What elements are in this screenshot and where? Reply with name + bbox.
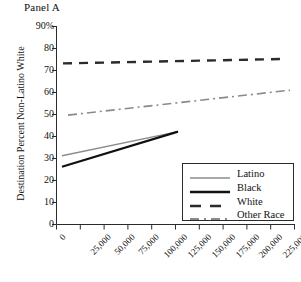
series-line-latino: [62, 132, 178, 156]
chart-root: Panel A Destination Percent Non-Latino W…: [0, 0, 301, 282]
legend-item-white: White: [189, 195, 263, 208]
series-line-white: [63, 59, 282, 63]
legend-swatch-latino: [189, 169, 231, 179]
legend-label-other-race: Other Race: [237, 209, 285, 220]
x-axis-ticks: [57, 225, 295, 230]
legend-label-white: White: [237, 196, 263, 207]
legend-item-other-race: Other Race: [189, 208, 285, 221]
series-line-black: [62, 132, 178, 167]
legend-item-latino: Latino: [189, 167, 264, 180]
legend-label-latino: Latino: [237, 168, 264, 179]
legend-swatch-other-race: [189, 210, 231, 220]
legend-label-black: Black: [237, 182, 262, 193]
legend-swatch-black: [189, 183, 231, 193]
y-axis-ticks: [52, 27, 57, 225]
legend-swatch-white: [189, 197, 231, 207]
series-line-other-race: [68, 90, 290, 115]
legend-item-black: Black: [189, 181, 262, 194]
legend: Latino Black White Other Race: [182, 163, 294, 221]
